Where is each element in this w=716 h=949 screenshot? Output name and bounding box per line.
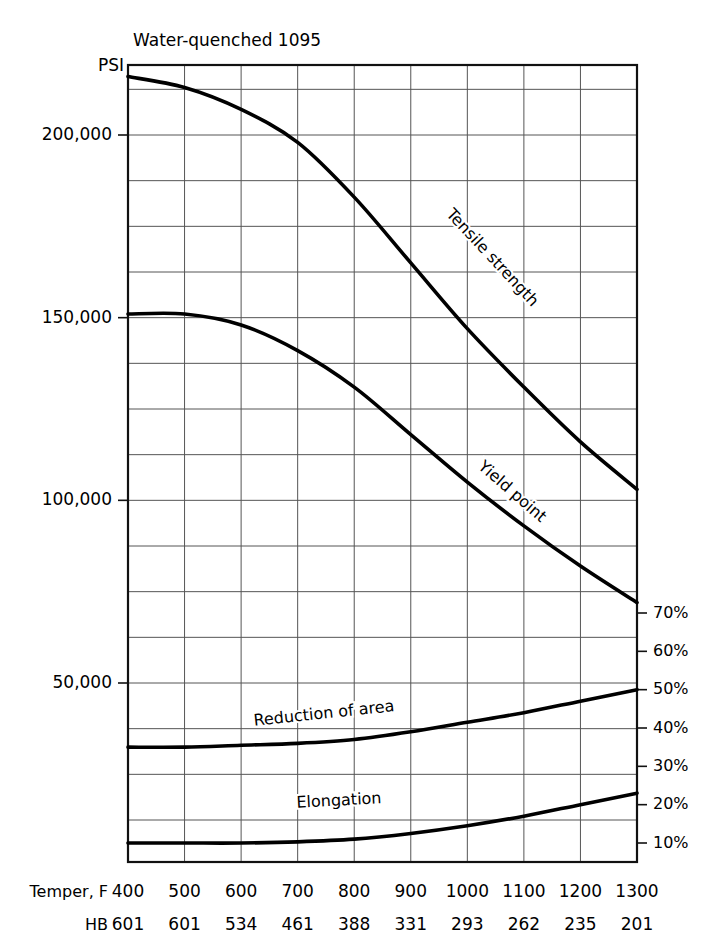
right-tick-label: 70% (653, 603, 689, 622)
right-tick-label: 60% (653, 641, 689, 660)
bottom-row-label: Temper, F (29, 882, 108, 901)
bottom-tick-label: 601 (112, 914, 144, 934)
bottom-tick-label: 201 (621, 914, 653, 934)
psi-unit-label: PSI (98, 55, 124, 75)
right-axis-ticks (637, 613, 647, 843)
bottom-tick-label: 700 (281, 881, 313, 901)
plot-frame (128, 65, 637, 862)
curve-label-elongation: Elongation (296, 788, 382, 811)
right-tick-label: 10% (653, 833, 689, 852)
left-axis-ticks (118, 135, 128, 683)
bottom-tick-label: 388 (338, 914, 370, 934)
left-axis-tick-labels: 200,000150,000100,00050,000 (42, 124, 112, 692)
right-tick-label: 30% (653, 756, 689, 775)
bottom-tick-label: 800 (338, 881, 370, 901)
curve-label-group: Reduction of area (253, 696, 395, 730)
bottom-tick-label: 235 (564, 914, 596, 934)
bottom-tick-label: 262 (508, 914, 540, 934)
bottom-tick-label: 534 (225, 914, 257, 934)
bottom-row-label: HB (85, 915, 108, 934)
bottom-tick-label: 600 (225, 881, 257, 901)
left-tick-label: 150,000 (42, 307, 112, 327)
curve-tensile-strength (128, 77, 637, 490)
bottom-tick-label: 331 (395, 914, 427, 934)
right-tick-label: 20% (653, 794, 689, 813)
bottom-tick-label: 293 (451, 914, 483, 934)
left-tick-label: 200,000 (42, 124, 112, 144)
curve-label-group: Elongation (296, 788, 382, 811)
left-tick-label: 100,000 (42, 489, 112, 509)
curve-label-group: Tensile strength (442, 204, 543, 310)
bottom-tick-label: 500 (168, 881, 200, 901)
bottom-tick-label: 601 (168, 914, 200, 934)
chart-figure: 200,000150,000100,00050,000 70%60%50%40%… (0, 0, 716, 949)
vertical-gridlines (185, 65, 581, 862)
right-axis-tick-labels: 70%60%50%40%30%20%10% (653, 603, 689, 852)
bottom-tick-label: 1200 (559, 881, 602, 901)
chart-svg: 200,000150,000100,00050,000 70%60%50%40%… (0, 0, 716, 949)
chart-title: Water-quenched 1095 (133, 30, 321, 50)
curve-elongation (128, 793, 637, 843)
left-tick-label: 50,000 (53, 672, 112, 692)
curve-label-tensile-strength: Tensile strength (442, 204, 543, 310)
data-curves (128, 77, 637, 844)
curve-yield-point (128, 313, 637, 602)
bottom-row-labels: Temper, FHB (29, 882, 108, 934)
bottom-tick-label: 400 (112, 881, 144, 901)
bottom-tick-label: 1300 (615, 881, 658, 901)
curve-label-reduction-of-area: Reduction of area (253, 696, 395, 730)
bottom-tick-label: 1100 (502, 881, 545, 901)
bottom-tick-label: 900 (395, 881, 427, 901)
bottom-tick-label: 1000 (446, 881, 489, 901)
right-tick-label: 40% (653, 718, 689, 737)
right-tick-label: 50% (653, 679, 689, 698)
bottom-tick-label: 461 (281, 914, 313, 934)
bottom-axis-tick-labels: 4005006007008009001000110012001300601601… (112, 881, 659, 934)
